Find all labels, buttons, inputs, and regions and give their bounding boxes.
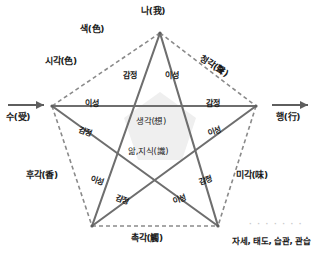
vertex-dot-top: [158, 31, 161, 34]
inner-label-right-horizontal-emotion: 감정: [206, 100, 219, 108]
edge-right-bottom: [218, 106, 256, 226]
edge-label-form-color: 색(色): [80, 25, 104, 34]
inner-label-top-right-reason: 이성: [165, 72, 178, 80]
center-label-knowledge: 앎,지식(識): [128, 147, 168, 156]
axis-label-left-reception: 수(受): [6, 113, 30, 122]
left-input-arrow-icon: [8, 101, 44, 109]
vertex-label-sight: 시각(色): [45, 57, 77, 66]
vertex-dot-right: [254, 104, 257, 107]
diagram-canvas: 나(我) 색(色) 시각(色) 청각(聲) 후각(香) 미각(味) 촉각(觸) …: [0, 0, 319, 260]
edge-top-left: [52, 33, 160, 106]
inner-label-left-horizontal-reason: 이성: [85, 100, 98, 108]
right-arrow-head: [300, 101, 308, 109]
vertex-label-smell: 후각(香): [26, 171, 58, 180]
right-output-arrow-icon: [272, 101, 308, 109]
vertex-dot-left: [50, 104, 53, 107]
edge-top-right: [160, 33, 256, 106]
vertex-dot-bottom-left: [90, 224, 93, 227]
vertex-label-self: 나(我): [141, 7, 165, 16]
caption-habits-attitude: 자세, 태도, 습관, 관습: [232, 237, 310, 246]
vertex-label-taste: 미각(味): [236, 171, 268, 180]
decorative-dot-row: · · · · · · ·: [249, 220, 303, 228]
left-arrow-head: [36, 101, 44, 109]
edge-left-bottom: [52, 106, 92, 226]
inner-label-top-left-emotion: 감정: [123, 72, 136, 80]
vertex-dot-bottom-right: [216, 224, 219, 227]
axis-label-right-action: 행(行): [276, 113, 300, 122]
center-label-thought: 생각(想): [136, 117, 166, 126]
vertex-label-touch: 촉각(觸): [131, 234, 163, 243]
